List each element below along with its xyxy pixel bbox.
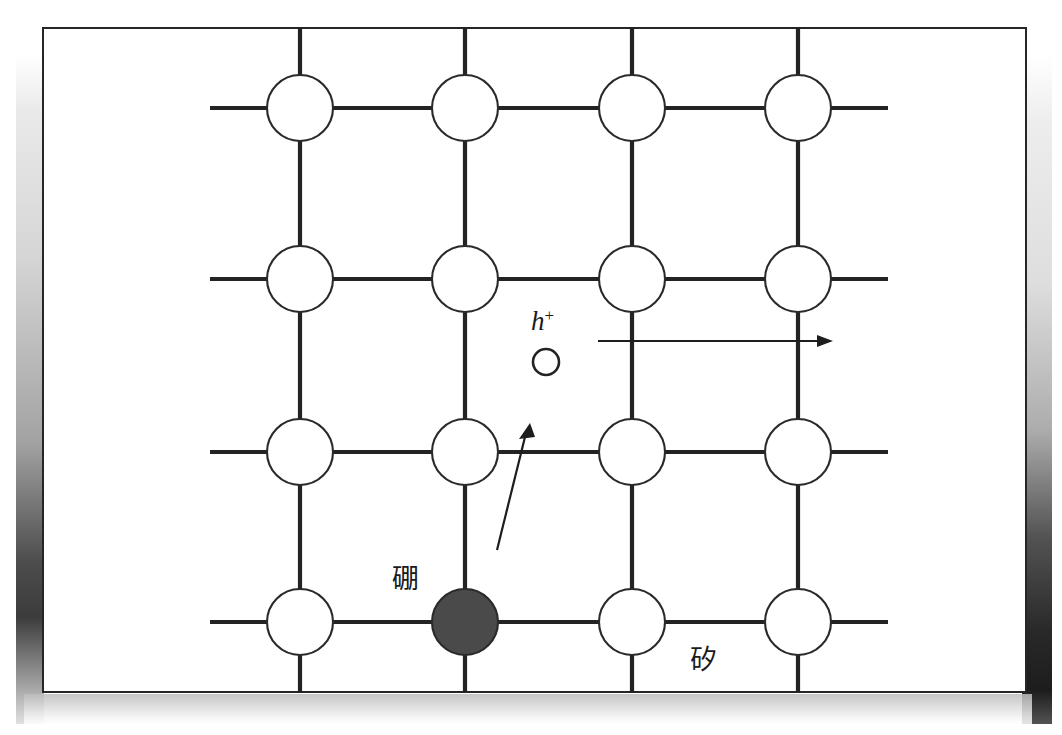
silicon-atom-circle (267, 589, 333, 655)
silicon-atom-circle (599, 419, 665, 485)
hole-circle (533, 349, 559, 375)
silicon-atom-circle (599, 246, 665, 312)
scan-shadow-left (16, 56, 44, 724)
silicon-atom-circle (267, 419, 333, 485)
dopant-atom-circle (432, 589, 498, 655)
silicon-atom-circle (267, 75, 333, 141)
silicon-atom-circle (432, 419, 498, 485)
silicon-atom-circle (765, 419, 831, 485)
silicon-atom-circle (267, 246, 333, 312)
electron-transition-arrow (497, 423, 535, 550)
silicon-atom-circle (432, 75, 498, 141)
hole-label: h+ (531, 306, 554, 336)
hole-symbol-text: h (531, 306, 545, 336)
host-label: 矽 (690, 644, 717, 675)
lattice-diagram: h+ 硼 矽 (42, 27, 1027, 693)
dopant-label: 硼 (392, 563, 419, 594)
silicon-atom-circle (599, 75, 665, 141)
figure-stage: h+ 硼 矽 (0, 0, 1062, 735)
silicon-atom-circle (765, 246, 831, 312)
scan-shadow-bottom (24, 694, 1032, 724)
hole-charge-text: + (545, 306, 555, 325)
silicon-atom-circle (765, 589, 831, 655)
silicon-atom-circle (765, 75, 831, 141)
silicon-atom-circle (432, 246, 498, 312)
silicon-atom-circle (599, 589, 665, 655)
